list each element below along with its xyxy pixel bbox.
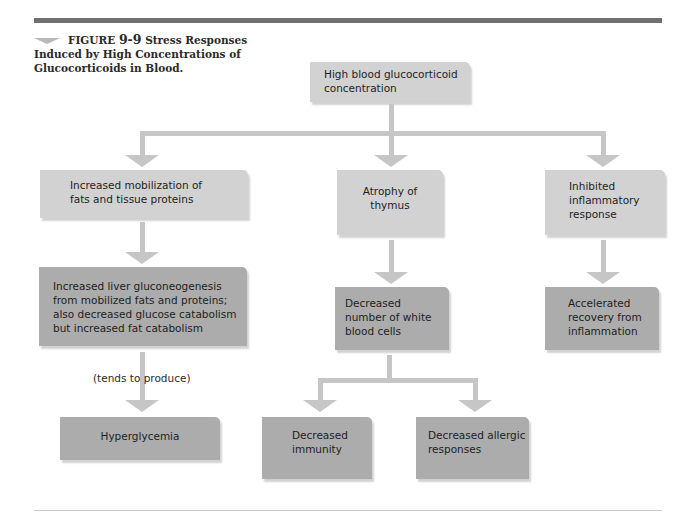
- node-thymus: Atrophy of thymus: [337, 170, 443, 235]
- figure-label: FIGURE: [68, 34, 115, 46]
- connector-thymus-down: [389, 240, 394, 272]
- node-gluconeogenesis: Increased liver gluconeogenesis from mob…: [39, 267, 247, 346]
- bottom-rule: [34, 510, 662, 511]
- arrow-to-allergic-icon: [458, 400, 492, 412]
- connector-right-down: [601, 131, 606, 155]
- connector-mobilization-down: [140, 222, 145, 252]
- figure-number: 9-9: [119, 32, 142, 47]
- node-wbc-text: Decreased number of white blood cells: [345, 296, 445, 338]
- node-inflammatory: Inhibited inflammatory response: [545, 170, 665, 235]
- connector-root-horizontal: [140, 131, 606, 136]
- arrow-to-mobilization-icon: [125, 155, 159, 167]
- node-immunity: Decreased immunity: [262, 417, 372, 479]
- node-recovery: Accelerated recovery from inflammation: [545, 287, 659, 350]
- arrow-to-inflammatory-icon: [586, 155, 620, 167]
- node-inflammatory-text: Inhibited inflammatory response: [569, 179, 647, 221]
- figure-title-line1: Stress Responses: [145, 34, 247, 46]
- edge-label-tends-to-produce: (tends to produce): [93, 372, 191, 384]
- arrow-to-recovery-icon: [586, 272, 620, 284]
- node-hyperglycemia: Hyperglycemia: [60, 417, 220, 460]
- node-gluconeogenesis-text: Increased liver gluconeogenesis from mob…: [53, 279, 237, 335]
- node-mobilization-text: Increased mobilization of fats and tissu…: [70, 178, 220, 206]
- node-immunity-text: Decreased immunity: [292, 428, 352, 456]
- figure-title-rest: Induced by High Concentrations of Glucoc…: [34, 48, 241, 74]
- node-allergic: Decreased allergic responses: [416, 417, 529, 479]
- node-recovery-text: Accelerated recovery from inflammation: [568, 296, 648, 338]
- node-wbc: Decreased number of white blood cells: [335, 287, 449, 350]
- node-mobilization: Increased mobilization of fats and tissu…: [40, 170, 248, 218]
- arrow-to-gluconeogenesis-icon: [125, 252, 159, 264]
- arrow-to-immunity-icon: [303, 400, 337, 412]
- connector-inflammatory-down: [601, 240, 606, 272]
- connector-left-down: [140, 131, 145, 155]
- arrow-to-hyperglycemia-icon: [125, 400, 159, 412]
- arrow-to-wbc-icon: [374, 272, 408, 284]
- connector-to-allergic: [473, 378, 478, 400]
- top-rule: [34, 18, 662, 23]
- connector-wbc-horizontal: [318, 378, 478, 383]
- node-allergic-text: Decreased allergic responses: [428, 428, 526, 456]
- node-hyperglycemia-text: Hyperglycemia: [101, 430, 180, 442]
- figure-caption: FIGURE 9-9 Stress Responses Induced by H…: [34, 33, 264, 75]
- node-thymus-text: Atrophy of thymus: [360, 184, 420, 212]
- node-root: High blood glucocorticoid concentration: [310, 62, 470, 102]
- node-root-text: High blood glucocorticoid concentration: [324, 68, 458, 94]
- connector-center-down: [389, 131, 394, 155]
- connector-to-immunity: [318, 378, 323, 400]
- caption-triangle-icon: [34, 38, 60, 44]
- arrow-to-thymus-icon: [374, 155, 408, 167]
